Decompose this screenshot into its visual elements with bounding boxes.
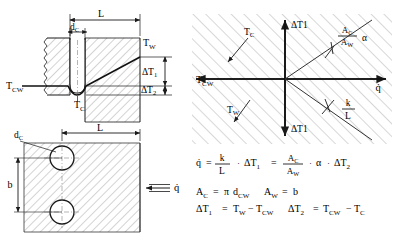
eq1-dot-2: · [309,158,312,168]
eq1-equals-1: = [206,157,212,168]
eq3-TCW: TCW [256,203,274,217]
dim-dT1-label: ΔT1 [142,67,157,78]
eq3-TCW2: TCW [323,203,341,217]
dim-b-label: b [8,179,13,190]
slope-upper-alpha: α [362,33,367,43]
eq1-alpha: α [316,157,322,168]
eq1-dot-3: · [327,158,330,168]
main-wall-block-fill [85,38,140,122]
eq2-pi: π [224,186,229,197]
equation-3: ΔT1 = TW − TCW ΔT2 = TCW − TC [196,203,365,217]
label-TCW: TCW [6,80,24,94]
eq1-frac1-denominator: L [219,166,225,176]
graph-y-axis-top-label: ΔT1 [291,20,308,30]
cross-section-fill [24,143,140,232]
dim-L2-label: L [97,122,103,133]
eq1-frac2-numerator: AC [288,153,299,164]
eq1-dot-1: · [237,158,240,168]
eq2-AW: AW [264,186,278,200]
eq1-lhs: q̇ [196,157,201,168]
dim-L-label: L [98,8,104,19]
eq3-minus-1: − [248,203,254,214]
eq2-AC: AC [196,186,208,200]
dim-dc-label: dC [70,22,79,33]
eq3-minus-2: − [346,203,352,214]
slope-lower-denominator: L [345,111,351,121]
eq3-dT2: ΔT2 [288,203,305,217]
equations-block: q̇ = k L · ΔT1 = AC AW · α · ΔT2 AC = π … [196,153,365,217]
equation-2: AC = π dCW AW = b [196,186,298,200]
eq3-TW: TW [233,203,246,217]
slope-lower-numerator: k [346,98,351,108]
label-TC: TC [74,99,85,113]
dim-dc2-label: dC [14,130,23,141]
eq2-b: b [293,186,298,197]
heat-flux-label: q̇ [174,182,180,193]
eq1-frac1-numerator: k [220,153,225,163]
eq1-frac2-denominator: AW [287,166,300,177]
engineering-figure: L dC ΔT1 ΔT2 TW TCW TC [0,0,400,245]
eq2-equals-2: = [282,186,288,197]
label-TW: TW [143,37,156,51]
eq2-equals-1: = [213,186,219,197]
dim-dT2-label: ΔT2 [141,85,156,96]
eq2-d-cw: dCW [233,186,250,200]
graph-y-axis-bottom-label: ΔT1 [291,124,308,134]
eq3-dT1: ΔT1 [196,203,213,217]
graph-x-axis-right-label: q̇ [375,82,381,93]
panel-wall-section: L dC ΔT1 ΔT2 TW TCW TC [6,8,172,122]
panel-quadrant-graph: ΔT1 ΔT1 q̇ TCW TC TW AC AW α k L [192,14,392,144]
eq1-equals-2: = [271,157,277,168]
eq3-TC: TC [354,203,365,217]
eq3-equals-2: = [313,203,319,214]
eq3-equals-1: = [222,203,228,214]
panel-channel-cross-section: L dC b q̇ [8,122,181,232]
eq1-term-dT1: ΔT1 [244,157,261,171]
equation-1: q̇ = k L · ΔT1 = AC AW · α · ΔT2 [196,153,351,177]
eq1-term-dT2: ΔT2 [334,157,351,171]
